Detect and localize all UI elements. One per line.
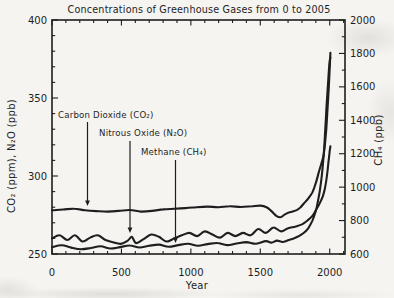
- y-left-tick-label: 250: [28, 249, 47, 260]
- y-right-tick-label: 1000: [350, 182, 375, 193]
- y-right-tick-label: 1800: [350, 48, 375, 59]
- chart-title: Concentrations of Greenhouse Gases from …: [68, 4, 331, 15]
- x-tick-label: 2000: [317, 267, 342, 278]
- x-tick-label: 0: [49, 267, 55, 278]
- co2-curve: [52, 53, 330, 218]
- annotations-group: Carbon Dioxide (CO₂)Nitrous Oxide (N₂O)M…: [58, 110, 206, 243]
- ch4-annotation-arrowhead: [173, 238, 178, 244]
- x-tick-label: 1000: [178, 267, 203, 278]
- y-left-tick-label: 400: [28, 15, 47, 26]
- axis-ticks-group: [52, 20, 345, 254]
- n2o-annotation-arrowhead: [128, 228, 133, 234]
- y-left-tick-label: 300: [28, 171, 47, 182]
- n2o-annotation-label: Nitrous Oxide (N₂O): [99, 128, 187, 138]
- co2-annotation-label: Carbon Dioxide (CO₂): [58, 110, 154, 120]
- y-right-tick-label: 800: [350, 215, 369, 226]
- y-left-axis-title: CO₂ (ppm), N₂O (ppb): [6, 99, 17, 213]
- y-right-tick-label: 2000: [350, 15, 375, 26]
- y-right-tick-label: 1600: [350, 81, 375, 92]
- x-axis-title: Year: [185, 280, 209, 291]
- y-right-tick-label: 1200: [350, 148, 375, 159]
- axes-frame-group: [52, 20, 345, 254]
- y-right-axis-title: CH₄ (ppb): [373, 114, 384, 165]
- y-right-tick-label: 600: [350, 249, 369, 260]
- x-tick-label: 500: [112, 267, 131, 278]
- co2-annotation-arrowhead: [85, 201, 90, 207]
- ch4-annotation-label: Methane (CH₄): [141, 147, 206, 157]
- chart-canvas: Concentrations of Greenhouse Gases from …: [0, 0, 394, 298]
- y-left-tick-label: 350: [28, 93, 47, 104]
- x-tick-label: 1500: [248, 267, 273, 278]
- plot-frame: [52, 20, 345, 254]
- n2o-curve: [52, 146, 330, 244]
- y-right-tick-label: 1400: [350, 115, 375, 126]
- scanned-greenhouse-gas-figure: Concentrations of Greenhouse Gases from …: [0, 0, 394, 298]
